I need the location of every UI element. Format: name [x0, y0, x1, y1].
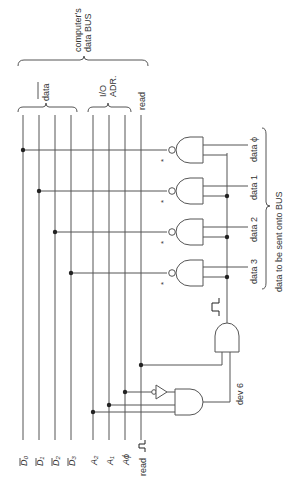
label-a1: A₁: [105, 456, 115, 466]
bus-title-line2: data BUS: [83, 13, 93, 52]
output-label-2: data 2: [249, 217, 259, 242]
asterisk-0: *: [159, 159, 168, 162]
data-bar-label: data: [41, 83, 51, 101]
io-adr-line2: ADR.: [108, 75, 118, 97]
tristate-gate-3: *: [69, 260, 248, 286]
bus-bottom-labels: D₀ D₁ D₂ D₃ A₂ A₁ Aϕ read: [19, 440, 148, 476]
data-bar-brace: [18, 103, 77, 112]
tristate-gate-1: *: [37, 178, 248, 204]
label-a0: Aϕ: [121, 454, 131, 466]
outputs-title: data to be sent onto BUS: [274, 191, 284, 292]
read-pulse-icon: [139, 440, 145, 452]
output-label-0: data ϕ: [249, 137, 259, 162]
io-adr-line1: I/O: [98, 85, 108, 97]
io-adr-brace: [88, 103, 131, 112]
asterisk-1: *: [159, 200, 168, 203]
label-a2: A₂: [89, 455, 99, 466]
bus-title-line1: computer's: [73, 8, 83, 52]
inverter-icon: [156, 385, 167, 399]
tristate-gate-2: *: [53, 219, 248, 245]
output-label-3: data 3: [249, 259, 259, 284]
label-read: read: [138, 458, 148, 476]
circuit-diagram: computer's data BUS data I/O ADR. read D…: [0, 0, 285, 486]
asterisk-3: *: [159, 282, 168, 285]
output-label-1: data 1: [249, 175, 259, 200]
read-group-label: read: [137, 92, 147, 110]
output-brace: [262, 128, 270, 289]
address-decoder: [91, 385, 230, 415]
asterisk-2: *: [159, 241, 168, 244]
dev-label: dev 6: [235, 383, 245, 405]
bus-brace: [18, 56, 148, 66]
enable-pulse-icon: [212, 298, 219, 316]
